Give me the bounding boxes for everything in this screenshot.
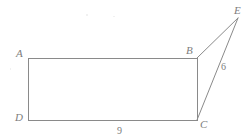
vertex-label-e: E — [234, 5, 241, 16]
vertex-label-b: B — [186, 45, 193, 56]
rectangle-abcd — [28, 58, 197, 120]
measure-label-ce: 6 — [221, 62, 226, 72]
segment-be — [197, 18, 238, 58]
vertex-label-c: C — [200, 119, 207, 130]
geometry-figure: A B C D E 9 6 — [0, 0, 251, 140]
scan-speckle — [86, 14, 88, 16]
scan-speckle — [113, 16, 115, 17]
vertex-label-a: A — [16, 48, 23, 59]
scan-speckle — [10, 68, 11, 70]
figure-canvas — [0, 0, 251, 140]
vertex-label-d: D — [15, 112, 23, 123]
triangle-bce-legs — [197, 18, 238, 120]
segment-ce — [197, 18, 238, 120]
measure-label-dc: 9 — [117, 126, 122, 136]
